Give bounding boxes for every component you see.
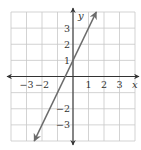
y-axis-label: y [77,10,84,21]
y-tick-label: −2 [56,103,70,114]
x-tick-label: −3 [19,79,33,90]
x-tick-label: 3 [116,79,122,90]
x-tick-label: 1 [85,79,91,90]
y-tick-label: 3 [64,23,70,34]
x-tick-label: 2 [101,79,107,90]
y-tick-label: 1 [64,55,70,66]
x-axis-label: x [132,79,138,90]
y-tick-label: −3 [56,119,70,130]
x-tick-label: −2 [35,79,49,90]
coordinate-plane: −3−2123321−2−3 x y [0,0,141,150]
y-tick-label: 2 [64,39,70,50]
